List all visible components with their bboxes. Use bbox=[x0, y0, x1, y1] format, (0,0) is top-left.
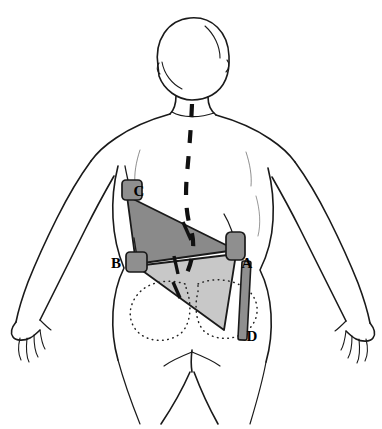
back-view-illustration: C B A D bbox=[0, 0, 382, 429]
marker-label-c: C bbox=[134, 183, 145, 199]
marker-b-shape[interactable] bbox=[126, 252, 147, 272]
anatomical-diagram: C B A D bbox=[0, 0, 382, 429]
marker-b[interactable] bbox=[126, 252, 147, 272]
marker-label-d: D bbox=[247, 328, 258, 344]
marker-label-b: B bbox=[111, 255, 121, 271]
marker-label-a: A bbox=[242, 255, 253, 271]
gluteal-cleft bbox=[191, 350, 192, 372]
